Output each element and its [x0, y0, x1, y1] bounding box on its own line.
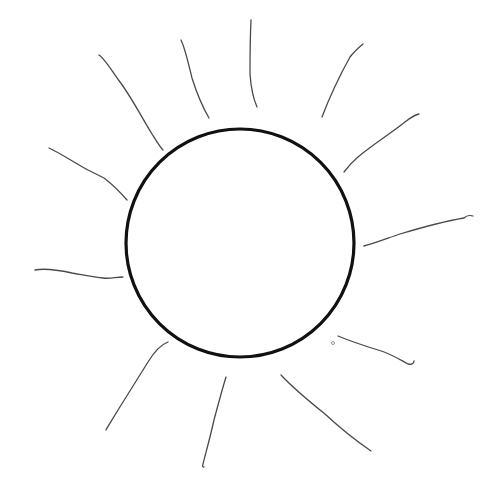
background: [0, 0, 502, 500]
sun-drawing-canvas: [0, 0, 502, 500]
